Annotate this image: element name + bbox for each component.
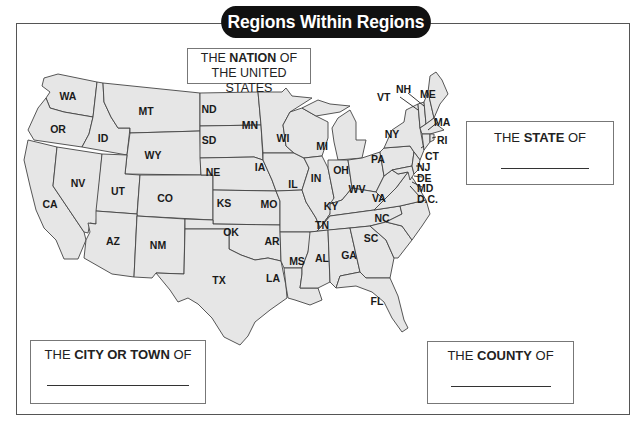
label-nv: NV [71,177,86,189]
label-wy: WY [145,149,162,161]
label-nc: NC [374,212,390,224]
label-ga: GA [341,249,357,261]
label-az: AZ [106,235,121,247]
label-ms: MS [289,255,305,267]
nation-subheading: THE UNITED STATES [188,66,310,96]
label-tn: TN [315,219,329,231]
county-heading: THE COUNTY OF [428,348,573,363]
label-dc: D.C. [417,193,438,205]
label-ks: KS [217,197,232,209]
label-id: ID [98,132,109,144]
label-ut: UT [111,185,126,197]
state-shapes [24,72,448,345]
label-ia: IA [255,161,266,173]
label-fl: FL [371,295,384,307]
label-oh: OH [333,164,349,176]
city-box: THE CITY OR TOWN OF [30,340,206,404]
city-heading: THE CITY OR TOWN OF [31,347,205,362]
label-va: VA [372,192,386,204]
label-or: OR [50,123,66,135]
label-mn: MN [242,119,258,131]
label-nm: NM [150,239,167,251]
label-wi: WI [277,132,290,144]
label-mi: MI [316,140,328,152]
label-vt: VT [377,91,391,103]
county-box: THE COUNTY OF [427,341,574,404]
label-ar: AR [264,235,280,247]
label-la: LA [266,272,280,284]
label-tx: TX [212,274,225,286]
state-heading: THE STATE OF [467,130,613,145]
nation-box: THE NATION OF THE UNITED STATES [187,48,311,84]
nation-heading: THE NATION OF [188,51,310,66]
label-il: IL [288,178,298,190]
label-sd: SD [202,134,217,146]
label-nd: ND [201,103,217,115]
state-box: THE STATE OF [466,121,614,185]
page-title: Regions Within Regions [221,6,431,38]
state-mi [332,110,366,160]
county-answer-line[interactable] [451,386,551,387]
label-al: AL [315,252,330,264]
label-ny: NY [385,128,400,140]
label-ne: NE [206,166,221,178]
state-wy [125,131,201,175]
label-sc: SC [364,232,379,244]
label-ky: KY [324,200,339,212]
label-ma: MA [434,116,451,128]
label-in: IN [311,172,322,184]
label-wv: WV [349,183,366,195]
state-answer-line[interactable] [501,168,589,169]
label-wa: WA [60,90,77,102]
label-ok: OK [223,226,239,238]
state-co [137,175,213,220]
city-answer-line[interactable] [47,385,189,386]
label-ca: CA [42,198,58,210]
label-mo: MO [261,198,278,210]
label-co: CO [157,192,173,204]
label-me: ME [420,88,436,100]
label-nh: NH [396,83,411,95]
label-pa: PA [371,153,385,165]
label-mt: MT [138,105,154,117]
label-ri: RI [437,134,448,146]
